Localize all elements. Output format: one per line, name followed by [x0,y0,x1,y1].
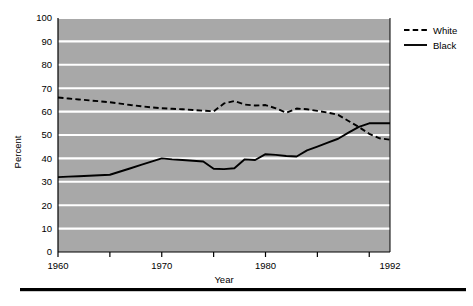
y-tick-label: 10 [41,223,52,234]
x-axis-tick-labels: 1960197019801992 [47,260,400,271]
y-axis-title: Percent [12,135,23,168]
y-tick-label: 0 [47,246,52,257]
legend-label-black: Black [433,40,456,51]
x-tick-label: 1980 [255,260,276,271]
footer-divider [20,288,466,291]
x-tick-label: 1970 [151,260,172,271]
y-tick-label: 90 [41,36,52,47]
legend-label-white: White [433,25,457,36]
x-tick-label: 1992 [379,260,400,271]
x-tick-label: 1960 [47,260,68,271]
y-tick-label: 70 [41,83,52,94]
figure-container: 0102030405060708090100 1960197019801992 … [0,0,473,306]
y-tick-label: 20 [41,200,52,211]
y-tick-label: 50 [41,129,52,140]
line-chart: 0102030405060708090100 1960197019801992 … [0,0,473,306]
chart-legend: White Black [404,25,457,51]
y-tick-label: 100 [36,12,52,23]
y-tick-label: 60 [41,106,52,117]
y-tick-label: 30 [41,176,52,187]
x-axis-title: Year [214,274,233,285]
x-axis-ticks [58,252,369,257]
y-tick-label: 80 [41,59,52,70]
y-tick-label: 40 [41,153,52,164]
y-axis-tick-labels: 0102030405060708090100 [36,12,52,257]
